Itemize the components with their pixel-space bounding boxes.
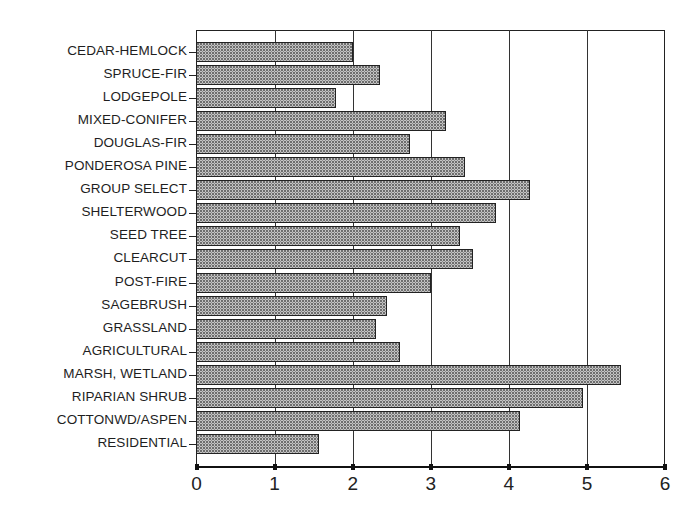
bar [197,319,377,339]
y-category-label: AGRICULTURAL [83,341,187,361]
y-category-label: DOUGLAS-FIR [94,133,187,153]
bar [197,273,431,293]
y-tick-mark [189,236,197,237]
y-tick-mark [189,444,197,445]
bar [197,249,473,269]
bar [197,296,388,316]
y-category-label: COTTONWD/ASPEN [57,410,187,430]
y-category-label: SHELTERWOOD [81,202,187,222]
y-category-label: SPRUCE-FIR [103,64,187,84]
bar [197,42,354,62]
y-tick-mark [189,121,197,122]
y-tick-mark [189,144,197,145]
bar [197,65,381,85]
y-category-label: SEED TREE [110,225,187,245]
bar [197,434,320,454]
y-tick-mark [189,259,197,260]
y-tick-mark [189,167,197,168]
y-tick-mark [189,283,197,284]
y-tick-mark [189,52,197,53]
y-category-label: CEDAR-HEMLOCK [67,41,187,61]
bar [197,226,460,246]
bar [197,411,520,431]
x-tick-label: 3 [416,473,446,495]
y-tick-mark [189,329,197,330]
y-tick-mark [189,98,197,99]
x-tick-label: 2 [338,473,368,495]
y-tick-mark [189,352,197,353]
bar [197,111,446,131]
x-tick-mark [585,464,589,470]
y-category-label: SAGEBRUSH [101,295,187,315]
x-tick-mark [195,464,199,470]
bar [197,180,530,200]
bar [197,365,622,385]
y-category-label: MARSH, WETLAND [63,364,187,384]
x-tick-mark [351,464,355,470]
bar [197,342,400,362]
y-category-label: GRASSLAND [103,318,187,338]
y-tick-mark [189,306,197,307]
bar [197,203,496,223]
bar [197,88,336,108]
x-tick-label: 1 [260,473,290,495]
horizontal-bar-chart: CEDAR-HEMLOCKSPRUCE-FIRLODGEPOLEMIXED-CO… [0,0,695,520]
y-tick-mark [189,75,197,76]
y-category-label: RESIDENTIAL [97,433,187,453]
y-category-label: CLEARCUT [113,248,187,268]
y-category-label: POST-FIRE [115,272,187,292]
y-tick-mark [189,421,197,422]
x-tick-label: 5 [572,473,602,495]
bar [197,157,466,177]
y-category-label: LODGEPOLE [103,87,187,107]
y-tick-mark [189,398,197,399]
y-category-label: MIXED-CONIFER [78,110,187,130]
y-category-label: RIPARIAN SHRUB [72,387,187,407]
y-tick-mark [189,375,197,376]
bar [197,134,411,154]
y-category-label: PONDEROSA PINE [65,156,187,176]
bar [197,388,584,408]
x-tick-mark [273,464,277,470]
x-tick-mark [663,464,667,470]
y-tick-mark [189,190,197,191]
x-tick-mark [507,464,511,470]
x-tick-label: 4 [494,473,524,495]
y-tick-mark [189,213,197,214]
gridline-x-5 [587,30,588,468]
x-tick-mark [429,464,433,470]
x-tick-label: 0 [182,473,212,495]
x-tick-label: 6 [650,473,680,495]
y-category-label: GROUP SELECT [80,179,187,199]
